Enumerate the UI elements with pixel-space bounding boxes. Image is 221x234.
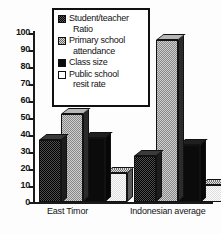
y-axis-labels: 100 90 80 70 60 50 40 30 20 10 0 [0, 0, 30, 234]
chart-legend: Student/teacher Ratio Primary school att… [52, 8, 150, 107]
legend-label-line2: resit rate [69, 79, 119, 90]
x-category-label-east-timor: East Timor [47, 206, 88, 216]
x-axis-line [33, 202, 213, 204]
legend-label: Primary school [69, 35, 125, 45]
bar-face [39, 140, 61, 203]
solid-black-swatch-icon [58, 59, 66, 67]
bar-side [83, 109, 89, 202]
legend-item-public-school-resit-rate: Public school resit rate [57, 69, 148, 90]
bar-side [178, 34, 184, 202]
bar-side [105, 132, 111, 202]
white-swatch-icon [58, 71, 66, 79]
legend-label-line2: Ratio [69, 24, 129, 35]
bar-side [200, 139, 206, 202]
bar-side [156, 151, 162, 202]
legend-item-student-teacher-ratio: Student/teacher Ratio [57, 13, 148, 34]
legend-label: Class size [69, 57, 108, 67]
x-category-label-indonesian-average: Indonesian average [130, 206, 205, 216]
dark-checker-swatch-icon [58, 15, 66, 23]
gray-checker-swatch-icon [58, 37, 66, 45]
y-tick-label: 100 [16, 28, 30, 37]
bar-east-timor-student-teacher-ratio [39, 140, 61, 203]
bar-side [61, 134, 67, 202]
legend-item-primary-school-attendance: Primary school attendance [57, 35, 148, 56]
bar-chart: 100 90 80 70 60 50 40 30 20 10 0 [0, 0, 221, 234]
bar-side [127, 168, 133, 202]
bar-indonesian-average-student-teacher-ratio [134, 156, 156, 202]
bar-face [134, 156, 156, 202]
legend-label-line2: attendance [69, 46, 125, 57]
legend-label: Public school [69, 69, 119, 79]
legend-label: Student/teacher [69, 13, 129, 23]
legend-item-class-size: Class size [57, 57, 148, 68]
